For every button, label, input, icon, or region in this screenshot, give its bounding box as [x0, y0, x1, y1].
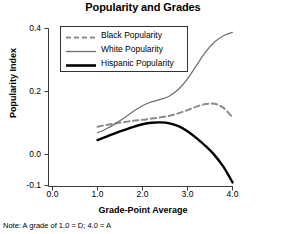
- series-line-hispanic-popularity: [98, 122, 233, 182]
- y-tick-label: 0.0: [11, 149, 41, 159]
- x-tick-label: 2.0: [128, 189, 158, 199]
- legend-item-white: White Popularity: [61, 44, 189, 58]
- legend-item-hispanic: Hispanic Popularity: [61, 58, 189, 72]
- x-tick-label: 4.0: [218, 189, 248, 199]
- legend-swatch-thick-solid-icon: [66, 64, 96, 67]
- y-tick-label: -0.1: [11, 180, 41, 190]
- y-tick-label: 0.4: [11, 23, 41, 33]
- chart-note: Note: A grade of 1.0 = D; 4.0 = A: [3, 221, 111, 230]
- y-tick-label: 0.2: [11, 86, 41, 96]
- chart-figure: Popularity and Grades Popularity Index 0…: [0, 0, 286, 234]
- legend-label-black: Black Popularity: [101, 30, 162, 40]
- legend-swatch-thin-solid-icon: [66, 50, 96, 53]
- x-tick-label: 3.0: [173, 189, 203, 199]
- chart-legend: Black Popularity White Popularity Hispan…: [60, 26, 188, 72]
- x-tick-label: 0.0: [38, 189, 68, 199]
- x-tick-label: 1.0: [83, 189, 113, 199]
- x-axis-label: Grade-Point Average: [48, 205, 238, 215]
- legend-label-hispanic: Hispanic Popularity: [101, 58, 174, 68]
- legend-label-white: White Popularity: [101, 44, 163, 54]
- legend-swatch-dashed-icon: [66, 36, 96, 39]
- legend-item-black: Black Popularity: [61, 30, 189, 44]
